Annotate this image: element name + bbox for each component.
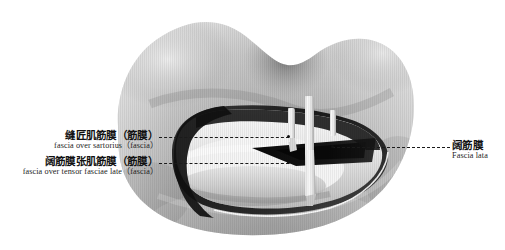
leader-line-fascia-lata	[332, 147, 450, 148]
leader-dot-sartorius	[287, 135, 290, 138]
illustration-canvas: 缝匠肌筋膜（筋膜） fascia over sartorius（fascia） …	[0, 0, 505, 250]
label-fascia-lata-en: Fascia lata	[452, 151, 505, 161]
leader-line-tensor-fasciae-latae	[159, 163, 289, 164]
anatomy-figure	[0, 0, 505, 250]
label-fascia-over-sartorius: 缝匠肌筋膜（筋膜） fascia over sartorius（fascia）	[0, 129, 158, 151]
label-sartorius-cn: 缝匠肌筋膜（筋膜）	[0, 129, 158, 141]
raster-texture	[0, 0, 505, 250]
label-tfl-cn: 阔筋膜张肌筋膜（筋膜）	[0, 155, 158, 167]
label-fascia-lata-cn: 阔筋膜	[452, 139, 505, 151]
label-fascia-lata: 阔筋膜 Fascia lata	[452, 139, 505, 161]
leader-dot-tensor-fasciae-latae	[287, 161, 290, 164]
leader-line-sartorius	[159, 137, 289, 138]
label-fascia-over-tensor-fasciae-latae: 阔筋膜张肌筋膜（筋膜） fascia over tensor fasciae l…	[0, 155, 158, 177]
label-tfl-en: fascia over tensor fasciae late（fascia）	[0, 167, 158, 177]
leader-dot-fascia-lata	[331, 145, 334, 148]
label-sartorius-en: fascia over sartorius（fascia）	[0, 141, 158, 151]
